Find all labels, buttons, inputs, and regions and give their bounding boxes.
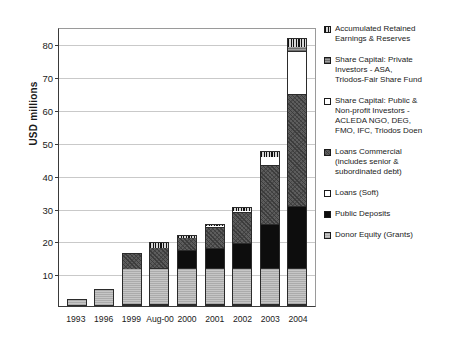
bar-segment[interactable] <box>233 244 251 269</box>
bar-segment[interactable] <box>288 207 306 269</box>
bar-segment[interactable] <box>178 238 196 251</box>
stacked-bar[interactable] <box>122 253 142 306</box>
bar-column[interactable] <box>94 289 114 306</box>
bar-segment[interactable] <box>150 269 168 305</box>
x-axis: 199319961999Aug-0020002001200220032004 <box>58 309 316 331</box>
stacked-bar[interactable] <box>177 235 197 306</box>
legend-label: Public Deposits <box>335 209 390 219</box>
stacked-bar[interactable] <box>205 224 225 306</box>
x-tick-label: 2004 <box>285 309 311 331</box>
bar-segment[interactable] <box>68 300 86 305</box>
y-tick-label: 10 <box>42 270 53 281</box>
bar-segment[interactable] <box>178 251 196 269</box>
bar-segment[interactable] <box>206 249 224 269</box>
legend-label: Loans (Soft) <box>335 188 379 198</box>
y-tick-label: 30 <box>42 204 53 215</box>
y-axis-title: USD millions <box>28 59 39 169</box>
stacked-bar[interactable] <box>260 151 280 306</box>
legend-swatch-icon <box>324 232 331 239</box>
stacked-bar[interactable] <box>94 289 114 306</box>
bar-segment[interactable] <box>288 95 306 207</box>
x-tick-label: 2000 <box>174 309 200 331</box>
y-tick-label: 50 <box>42 138 53 149</box>
legend-item[interactable]: Public Deposits <box>324 209 451 219</box>
legend-label: Loans Commercial (includes senior & subo… <box>335 147 402 177</box>
bar-column[interactable] <box>287 38 307 306</box>
stacked-bar[interactable] <box>67 299 87 306</box>
stacked-bar[interactable] <box>232 207 252 306</box>
bar-group <box>59 29 315 306</box>
bar-column[interactable] <box>67 299 87 306</box>
legend-swatch-icon <box>324 190 331 197</box>
legend-label: Donor Equity (Grants) <box>335 230 413 240</box>
bar-segment[interactable] <box>150 248 168 269</box>
y-tick-label: 40 <box>42 171 53 182</box>
bar-segment[interactable] <box>288 269 306 305</box>
legend-item[interactable]: Loans (Soft) <box>324 188 451 198</box>
bar-segment[interactable] <box>288 52 306 95</box>
bar-segment[interactable] <box>206 269 224 305</box>
plot-area: 1020304050607080 <box>58 28 316 307</box>
y-tick-label: 60 <box>42 106 53 117</box>
stacked-bar[interactable] <box>287 38 307 306</box>
bar-segment[interactable] <box>123 254 141 269</box>
bar-segment[interactable] <box>178 269 196 305</box>
bar-column[interactable] <box>205 224 225 306</box>
bar-segment[interactable] <box>206 228 224 249</box>
bar-column[interactable] <box>122 253 142 306</box>
legend-swatch-icon <box>324 57 331 64</box>
legend-swatch-icon <box>324 98 331 105</box>
bar-segment[interactable] <box>95 290 113 305</box>
x-tick-label: 1996 <box>91 309 117 331</box>
bar-column[interactable] <box>177 235 197 306</box>
legend-label: Share Capital: Public & Non-profit Inves… <box>335 96 422 136</box>
legend-item[interactable]: Accumulated Retained Earnings & Reserves <box>324 24 451 44</box>
chart-legend: Accumulated Retained Earnings & Reserves… <box>324 24 451 251</box>
y-tick-label: 70 <box>42 73 53 84</box>
legend-item[interactable]: Share Capital: Public & Non-profit Inves… <box>324 96 451 136</box>
x-tick-label: 2003 <box>257 309 283 331</box>
x-tick-label: 1999 <box>118 309 144 331</box>
stacked-bar[interactable] <box>149 242 169 306</box>
bar-column[interactable] <box>149 242 169 306</box>
bar-segment[interactable] <box>288 39 306 47</box>
bar-segment[interactable] <box>261 225 279 269</box>
legend-swatch-icon <box>324 149 331 156</box>
bar-segment[interactable] <box>261 157 279 165</box>
legend-label: Share Capital: Private Investors - ASA, … <box>335 55 422 85</box>
bar-segment[interactable] <box>261 166 279 225</box>
bar-segment[interactable] <box>233 213 251 244</box>
legend-item[interactable]: Donor Equity (Grants) <box>324 230 451 240</box>
x-tick-label: 2001 <box>202 309 228 331</box>
y-tick-label: 80 <box>42 40 53 51</box>
bar-column[interactable] <box>260 151 280 306</box>
bar-segment[interactable] <box>123 269 141 305</box>
bar-segment[interactable] <box>233 269 251 305</box>
legend-label: Accumulated Retained Earnings & Reserves <box>335 24 416 44</box>
x-tick-label: 1993 <box>63 309 89 331</box>
legend-swatch-icon <box>324 211 331 218</box>
bar-segment[interactable] <box>261 269 279 305</box>
legend-item[interactable]: Share Capital: Private Investors - ASA, … <box>324 55 451 85</box>
legend-swatch-icon <box>324 26 331 33</box>
y-tick-label: 20 <box>42 237 53 248</box>
chart-root: USD millions 1020304050607080 1993199619… <box>0 0 451 351</box>
legend-item[interactable]: Loans Commercial (includes senior & subo… <box>324 147 451 177</box>
x-tick-label: 2002 <box>229 309 255 331</box>
bar-column[interactable] <box>232 207 252 306</box>
x-tick-label: Aug-00 <box>146 309 172 331</box>
